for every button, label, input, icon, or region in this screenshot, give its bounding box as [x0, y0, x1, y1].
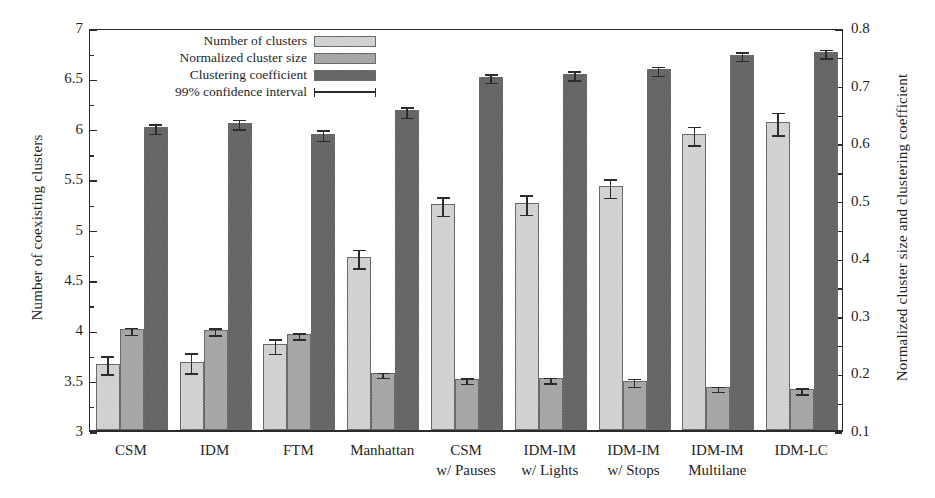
error-bar-cap-top	[485, 74, 498, 76]
error-bar	[814, 50, 838, 60]
error-bar-cap-bottom	[628, 387, 641, 389]
error-bar	[766, 113, 790, 137]
error-bar	[263, 339, 287, 355]
error-bar-stem	[107, 356, 109, 375]
bar	[647, 69, 671, 430]
error-bar-cap-top	[209, 328, 222, 330]
y-axis-label-left: Number of coexisting clusters	[29, 28, 46, 428]
error-bar-cap-top	[317, 130, 330, 132]
legend: Number of clustersNormalized cluster siz…	[175, 33, 376, 101]
y-minor-tick-right	[838, 58, 842, 59]
error-bar	[180, 353, 204, 374]
x-axis-category-label: IDM	[173, 440, 257, 460]
y-tick-label-left: 6	[76, 121, 84, 138]
y-tick-label-right: 0.3	[851, 308, 870, 325]
error-bar-cap-bottom	[317, 141, 330, 143]
bar	[479, 77, 503, 430]
error-bar-cap-bottom	[688, 145, 701, 147]
error-bar-stem	[694, 127, 696, 147]
bar	[144, 127, 168, 430]
x-axis-category-label: CSMw/ Pauses	[424, 440, 508, 480]
error-bar-cap-bottom	[796, 394, 809, 396]
legend-errorbar-cap-right	[375, 88, 376, 97]
y-tick-label-left: 3	[76, 423, 84, 440]
y-tick-label-right: 0.5	[851, 193, 870, 210]
error-bar	[623, 379, 647, 388]
y-minor-tick-right	[838, 404, 842, 405]
error-bar	[790, 388, 814, 395]
category-label-line2: w/ Lights	[508, 460, 592, 480]
error-bar-cap-bottom	[149, 134, 162, 136]
error-bar-cap-top	[796, 388, 809, 390]
bar-group	[599, 30, 671, 430]
bar	[347, 257, 371, 430]
y-tick-label-right: 0.7	[851, 78, 870, 95]
error-bar-cap-bottom	[736, 61, 749, 63]
error-bar-cap-top	[293, 333, 306, 335]
error-bar	[144, 124, 168, 135]
legend-label: Number of clusters	[203, 33, 306, 49]
category-label-line2: Multilane	[675, 460, 759, 480]
error-bar	[563, 71, 587, 81]
bar	[730, 55, 754, 430]
x-axis-category-label: FTM	[257, 440, 341, 460]
legend-errorbar-line	[314, 91, 376, 92]
y-tick-label-right: 0.6	[851, 135, 870, 152]
error-bar-cap-top	[185, 353, 198, 355]
legend-item: Clustering coefficient	[175, 67, 376, 83]
error-bar-cap-bottom	[461, 384, 474, 386]
bar	[204, 330, 228, 430]
error-bar-cap-bottom	[604, 198, 617, 200]
error-bar-cap-bottom	[209, 335, 222, 337]
category-label-line1: IDM-IM	[691, 442, 744, 458]
error-bar-stem	[191, 353, 193, 374]
error-bar-cap-top	[401, 107, 414, 109]
category-label-line1: IDM	[200, 442, 229, 458]
legend-swatch	[314, 70, 376, 81]
error-bar	[455, 378, 479, 385]
bar	[287, 334, 311, 430]
y-tick-label-left: 5.5	[64, 171, 83, 188]
legend-label: Clustering coefficient	[190, 67, 307, 83]
bar	[814, 52, 838, 430]
y-minor-tick-left	[90, 407, 94, 408]
error-bar	[287, 333, 311, 340]
y-tick-label-right: 0.8	[851, 20, 870, 37]
category-label-line1: IDM-LC	[774, 442, 827, 458]
bar	[395, 110, 419, 430]
error-bar-cap-bottom	[544, 383, 557, 385]
error-bar-cap-bottom	[401, 118, 414, 120]
bar	[455, 379, 479, 430]
category-label-line1: CSM	[115, 442, 147, 458]
error-bar	[120, 328, 144, 337]
error-bar-stem	[358, 250, 360, 270]
bar	[563, 74, 587, 430]
legend-item: 99% confidence interval	[175, 84, 376, 100]
error-bar	[96, 356, 120, 375]
error-bar-cap-top	[101, 356, 114, 358]
y-minor-tick-right	[838, 288, 842, 289]
error-bar	[228, 120, 252, 131]
y-minor-tick-left	[90, 256, 94, 257]
bar-group	[96, 30, 168, 430]
error-bar-cap-top	[568, 71, 581, 73]
category-label-line1: IDM-IM	[607, 442, 660, 458]
figure: Number of coexisting clusters Normalized…	[0, 0, 935, 498]
bar-group	[766, 30, 838, 430]
error-bar	[539, 378, 563, 385]
error-bar-cap-bottom	[269, 354, 282, 356]
x-axis-category-label: IDM-IMMultilane	[675, 440, 759, 480]
legend-swatch	[314, 36, 376, 47]
error-bar-cap-top	[736, 52, 749, 54]
bar	[682, 134, 706, 430]
y-minor-tick-right	[838, 116, 842, 117]
x-axis-category-label: Manhattan	[340, 440, 424, 460]
error-bar-cap-bottom	[652, 76, 665, 78]
error-bar	[730, 52, 754, 62]
bar	[539, 378, 563, 430]
legend-label: 99% confidence interval	[175, 84, 307, 100]
error-bar-stem	[610, 179, 612, 199]
error-bar-stem	[777, 113, 779, 137]
error-bar-cap-top	[820, 50, 833, 52]
error-bar	[347, 250, 371, 270]
